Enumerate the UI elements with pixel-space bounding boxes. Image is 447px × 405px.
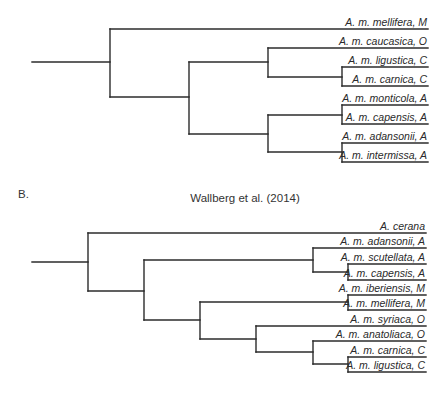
taxon-label: A. m. syriaca, O <box>349 313 425 325</box>
tree-b-title: Wallberg et al. (2014) <box>190 192 300 204</box>
phylogeny-figure: A. m. mellifera, MA. m. caucasica, OA. m… <box>0 0 447 405</box>
taxon-label: A. m. scutellata, A <box>340 251 425 263</box>
taxon-label: A. cerana <box>379 220 425 232</box>
taxon-label: A. m. adansonii, A <box>341 130 427 142</box>
taxon-label: A. m. ligustica, C <box>347 54 427 66</box>
tree-panel-a: A. m. mellifera, MA. m. caucasica, OA. m… <box>32 16 428 162</box>
tree-a-branches <box>32 29 342 162</box>
panel-label-b: B. <box>18 188 29 200</box>
tree-panel-b: B. Wallberg et al. (2014) A. ceranaA. m.… <box>18 188 426 372</box>
taxon-label: A. m. carnica, C <box>349 344 425 356</box>
taxon-label: A. m. anatoliaca, O <box>335 328 425 340</box>
taxon-label: A. m. carnica, C <box>351 73 427 85</box>
tree-b-branches <box>32 233 348 372</box>
taxon-label: A. m. mellifera, M <box>344 16 427 28</box>
taxon-label: A. m. caucasica, O <box>338 35 427 47</box>
tree-b-leaves: A. ceranaA. m. adansonii, AA. m. scutell… <box>88 220 426 372</box>
taxon-label: A. m. intermissa, A <box>338 149 427 161</box>
taxon-label: A. m. mellifera, M <box>342 297 425 309</box>
tree-a-leaves: A. m. mellifera, MA. m. caucasica, OA. m… <box>110 16 428 162</box>
taxon-label: A. m. monticola, A <box>341 92 427 104</box>
taxon-label: A. m. iberiensis, M <box>338 282 426 294</box>
taxon-label: A. m. capensis, A <box>345 111 427 123</box>
taxon-label: A. m. adansonii, A <box>339 235 425 247</box>
taxon-label: A. m. ligustica, C <box>345 359 425 371</box>
taxon-label: A. m. capensis, A <box>343 267 425 279</box>
